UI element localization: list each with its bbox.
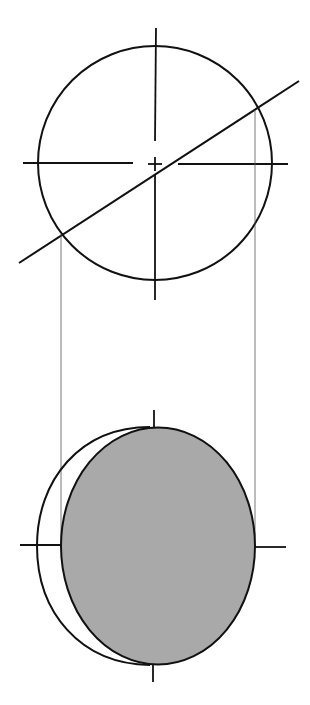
vertical-center-line-upper [155,28,156,141]
projection-diagram [0,0,310,705]
section-ellipse [61,428,255,665]
